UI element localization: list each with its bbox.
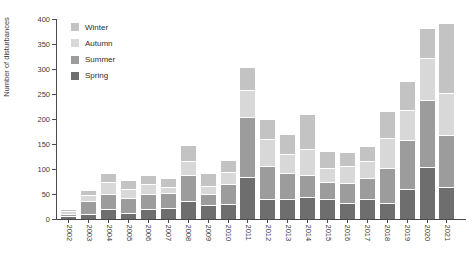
bar-segment-winter-2012 — [260, 120, 275, 140]
bar-segment-winter-2008 — [181, 146, 196, 163]
bar-segment-winter-2017 — [360, 147, 375, 162]
x-axis-tick — [228, 220, 229, 223]
bar-segment-winter-2016 — [340, 153, 355, 167]
x-axis-tick-label-2011: 2011 — [243, 225, 252, 251]
x-axis-tick-label-2010: 2010 — [224, 225, 233, 251]
x-axis-tick — [407, 220, 408, 223]
x-axis-tick — [148, 220, 149, 223]
x-axis-tick — [247, 220, 248, 223]
bar-segment-summer-2002 — [61, 215, 76, 218]
bar-segment-spring-2007 — [161, 209, 176, 219]
x-axis-tick-label-2002: 2002 — [64, 225, 73, 251]
x-axis-tick-label-2016: 2016 — [343, 225, 352, 251]
bar-segment-spring-2015 — [320, 200, 335, 219]
bar-segment-spring-2004 — [101, 210, 116, 219]
x-axis-tick — [427, 220, 428, 223]
legend-item-winter: Winter — [71, 21, 108, 33]
legend-item-spring: Spring — [71, 70, 108, 82]
legend-swatch-summer — [71, 56, 79, 64]
x-axis-tick-label-2008: 2008 — [184, 225, 193, 251]
bar-segment-spring-2019 — [400, 190, 415, 219]
x-axis-tick — [108, 220, 109, 223]
bar-segment-summer-2003 — [81, 202, 96, 215]
bar-segment-winter-2006 — [141, 176, 156, 185]
bar-segment-autumn-2016 — [340, 167, 355, 184]
x-axis-tick — [307, 220, 308, 223]
y-axis-tick-label: 50 — [26, 190, 50, 199]
bar-segment-spring-2010 — [221, 205, 236, 219]
legend-item-summer: Summer — [71, 54, 115, 66]
x-axis-tick-label-2013: 2013 — [283, 225, 292, 251]
bar-segment-spring-2006 — [141, 210, 156, 219]
bar-segment-spring-2014 — [300, 198, 315, 219]
y-axis-tick — [52, 19, 56, 20]
x-axis-tick-label-2004: 2004 — [104, 225, 113, 251]
x-axis-tick-label-2015: 2015 — [323, 225, 332, 251]
bar-segment-summer-2018 — [380, 169, 395, 204]
bar-segment-winter-2015 — [320, 152, 335, 169]
bar-segment-summer-2015 — [320, 183, 335, 201]
legend-swatch-autumn — [71, 39, 79, 47]
bar-segment-winter-2010 — [221, 161, 236, 173]
legend-swatch-spring — [71, 72, 79, 80]
bar-segment-autumn-2004 — [101, 183, 116, 195]
legend-label-autumn: Autumn — [85, 39, 113, 48]
y-axis-tick — [52, 119, 56, 120]
bar-segment-winter-2014 — [300, 115, 315, 150]
bar-segment-summer-2011 — [240, 118, 255, 178]
bar-segment-autumn-2019 — [400, 111, 415, 141]
x-axis-tick — [387, 220, 388, 223]
bar-segment-summer-2019 — [400, 141, 415, 191]
y-axis-tick-label: 100 — [26, 165, 50, 174]
bar-segment-spring-2002 — [61, 217, 76, 219]
x-axis-tick-label-2019: 2019 — [403, 225, 412, 251]
x-axis-tick — [88, 220, 89, 223]
x-axis-tick-label-2014: 2014 — [303, 225, 312, 251]
bar-segment-autumn-2005 — [121, 190, 136, 199]
bar-segment-autumn-2010 — [221, 173, 236, 186]
bar-segment-autumn-2020 — [420, 59, 435, 101]
x-axis-tick-label-2017: 2017 — [363, 225, 372, 251]
bar-segment-autumn-2021 — [439, 94, 454, 136]
y-axis-tick-label: 350 — [26, 40, 50, 49]
bar-segment-spring-2016 — [340, 204, 355, 220]
bar-segment-summer-2013 — [280, 174, 295, 200]
y-axis-tick — [52, 69, 56, 70]
bar-segment-winter-2018 — [380, 112, 395, 140]
legend-label-summer: Summer — [85, 55, 115, 64]
y-axis-tick — [52, 169, 56, 170]
bar-segment-summer-2005 — [121, 199, 136, 214]
bar-segment-summer-2017 — [360, 179, 375, 201]
bar-segment-autumn-2017 — [360, 162, 375, 179]
x-axis-tick-label-2009: 2009 — [204, 225, 213, 251]
bar-segment-winter-2003 — [81, 191, 96, 197]
bar-segment-winter-2007 — [161, 179, 176, 188]
bar-segment-autumn-2006 — [141, 185, 156, 195]
y-axis-line — [56, 19, 57, 220]
x-axis-tick-label-2021: 2021 — [442, 225, 451, 251]
bar-segment-autumn-2015 — [320, 169, 335, 183]
legend-item-autumn: Autumn — [71, 37, 113, 49]
stacked-bar-chart: Number of disturbances 05010015020025030… — [0, 0, 473, 255]
x-axis-tick — [287, 220, 288, 223]
x-axis-tick-label-2020: 2020 — [423, 225, 432, 251]
bar-segment-summer-2016 — [340, 184, 355, 204]
y-axis-tick — [52, 144, 56, 145]
bar-segment-winter-2013 — [280, 135, 295, 155]
bar-segment-spring-2018 — [380, 204, 395, 219]
bar-segment-spring-2009 — [201, 206, 216, 219]
x-axis-tick-label-2006: 2006 — [144, 225, 153, 251]
x-axis-tick-label-2018: 2018 — [383, 225, 392, 251]
bar-segment-summer-2004 — [101, 195, 116, 210]
plot-area: 050100150200250300350400 200220032004200… — [57, 19, 468, 219]
bar-segment-winter-2002 — [61, 210, 76, 212]
bar-segment-spring-2003 — [81, 215, 96, 219]
bar-segment-summer-2007 — [161, 194, 176, 209]
bar-segment-summer-2014 — [300, 176, 315, 198]
bar-segment-winter-2004 — [101, 174, 116, 183]
y-axis-title: Number of disturbances — [2, 1, 24, 113]
x-axis-tick-label-2012: 2012 — [263, 225, 272, 251]
x-axis-tick-label-2005: 2005 — [124, 225, 133, 251]
bar-segment-winter-2021 — [439, 24, 454, 94]
y-axis-tick — [52, 44, 56, 45]
